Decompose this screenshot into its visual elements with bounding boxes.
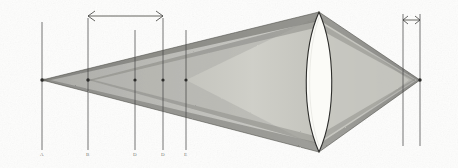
vertex-dot-D1 (133, 78, 136, 81)
vertex-dot-E (184, 78, 187, 81)
station-label-E: E (184, 152, 187, 157)
optical-ray-diagram: A B D D E (0, 0, 458, 168)
vertex-dot-right (418, 78, 421, 81)
station-label-D2: D (161, 152, 165, 157)
station-label-A: A (40, 152, 44, 157)
station-label-B: B (86, 152, 89, 157)
diagram-canvas (0, 0, 458, 168)
station-label-D1: D (133, 152, 137, 157)
vertex-dot-A (40, 78, 43, 81)
vertex-dot-D2 (161, 78, 164, 81)
vertex-dot-B (86, 78, 89, 81)
